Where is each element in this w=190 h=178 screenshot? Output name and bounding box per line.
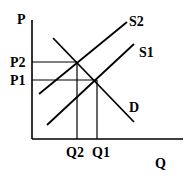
s1-label: S1 [139, 45, 154, 60]
q1-label: Q1 [92, 145, 110, 160]
d-label: D [129, 100, 139, 115]
supply-curve-s2 [39, 22, 127, 94]
p2-label: P2 [10, 55, 26, 70]
q2-label: Q2 [66, 145, 84, 160]
supply-curve-s1 [47, 44, 134, 125]
p1-label: P1 [10, 73, 26, 88]
supply-demand-diagram: P Q S2 S1 D P2 P1 Q2 Q1 [0, 0, 190, 178]
x-axis-label: Q [155, 156, 166, 171]
y-axis-label: P [17, 12, 26, 27]
s2-label: S2 [129, 14, 144, 29]
